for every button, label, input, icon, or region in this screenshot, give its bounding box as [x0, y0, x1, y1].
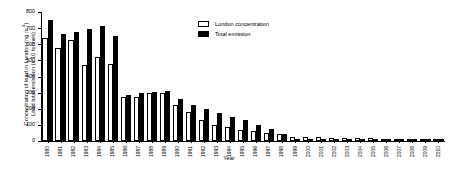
bar-group — [329, 12, 339, 141]
bar-group — [173, 12, 183, 141]
y-tick-label: 100 — [26, 121, 35, 127]
x-tick — [113, 141, 114, 143]
legend-swatch-white-icon — [198, 21, 209, 27]
bar-total-emission — [74, 32, 79, 141]
bar-total-emission — [282, 134, 287, 141]
bar-group — [420, 12, 430, 141]
bar-group — [277, 12, 287, 141]
bar-group — [355, 12, 365, 141]
y-tick-label: 400 — [26, 73, 35, 79]
bar-total-emission — [243, 120, 248, 141]
x-tick — [61, 141, 62, 143]
x-tick — [178, 141, 179, 143]
y-tick-label: 300 — [26, 89, 35, 95]
y-tick: 400 — [38, 77, 41, 78]
y-tick: 600 — [38, 44, 41, 45]
y-tick: 300 — [38, 93, 41, 94]
bar-total-emission — [126, 95, 131, 141]
y-tick: 700 — [38, 28, 41, 29]
x-tick — [87, 141, 88, 143]
bar-group — [394, 12, 404, 141]
bar-total-emission — [48, 20, 53, 141]
bar-group — [381, 12, 391, 141]
x-tick — [48, 141, 49, 143]
bar-total-emission — [178, 99, 183, 141]
bar-total-emission — [113, 36, 118, 141]
x-tick — [191, 141, 192, 143]
bar-group — [147, 12, 157, 141]
y-tick-label: 600 — [26, 41, 35, 47]
bar-total-emission — [100, 26, 105, 141]
x-tick — [412, 141, 413, 143]
x-tick — [269, 141, 270, 143]
bar-group — [134, 12, 144, 141]
x-tick — [165, 141, 166, 143]
bar-group — [68, 12, 78, 141]
legend-item-london-concentration: London concentration — [198, 19, 269, 29]
bar-group — [186, 12, 196, 141]
bar-total-emission — [165, 91, 170, 141]
bar-group — [303, 12, 313, 141]
x-tick — [438, 141, 439, 143]
bar-group — [55, 12, 65, 141]
x-tick — [347, 141, 348, 143]
bar-group — [121, 12, 131, 141]
lead-emission-bar-chart: Concentration of lead in London (ng m-3)… — [0, 0, 458, 172]
y-tick: 100 — [38, 125, 41, 126]
bar-group — [433, 12, 443, 141]
bar-total-emission — [256, 125, 261, 141]
x-tick — [399, 141, 400, 143]
y-tick-label: 200 — [26, 105, 35, 111]
bar-total-emission — [191, 105, 196, 141]
bar-group — [368, 12, 378, 141]
x-tick — [334, 141, 335, 143]
x-tick — [373, 141, 374, 143]
bar-total-emission — [61, 34, 66, 141]
x-tick — [126, 141, 127, 143]
y-tick: 500 — [38, 60, 41, 61]
y-tick-label: 800 — [26, 8, 35, 14]
bar-total-emission — [204, 109, 209, 141]
bar-total-emission — [217, 113, 222, 141]
x-tick — [360, 141, 361, 143]
legend-swatch-black-icon — [198, 31, 209, 37]
x-tick — [230, 141, 231, 143]
legend-label-london-concentration: London concentration — [215, 21, 269, 27]
y-tick-label: 0 — [32, 137, 35, 143]
x-tick — [256, 141, 257, 143]
x-tick — [74, 141, 75, 143]
bar-total-emission — [139, 93, 144, 141]
y-axis-title: Concentration of lead in London (ng m-3)… — [0, 0, 26, 150]
y-tick: 0 — [38, 141, 41, 142]
bar-group — [407, 12, 417, 141]
x-tick — [425, 141, 426, 143]
x-tick — [139, 141, 140, 143]
y-tick-label: 700 — [26, 25, 35, 31]
x-tick — [204, 141, 205, 143]
bar-group — [108, 12, 118, 141]
x-tick — [243, 141, 244, 143]
x-tick — [295, 141, 296, 143]
legend: London concentration Total emission — [198, 19, 269, 39]
bar-total-emission — [152, 92, 157, 141]
y-tick: 800 — [38, 12, 41, 13]
bar-group — [42, 12, 52, 141]
legend-label-total-emission: Total emission — [215, 31, 250, 37]
x-tick — [152, 141, 153, 143]
x-tick — [217, 141, 218, 143]
x-axis-title: Year — [0, 155, 458, 161]
bar-group — [95, 12, 105, 141]
x-tick — [321, 141, 322, 143]
x-tick — [100, 141, 101, 143]
x-tick — [308, 141, 309, 143]
y-tick-label: 500 — [26, 57, 35, 63]
bar-group — [160, 12, 170, 141]
x-tick — [386, 141, 387, 143]
bar-total-emission — [230, 117, 235, 141]
bar-group — [342, 12, 352, 141]
x-tick — [282, 141, 283, 143]
bar-total-emission — [87, 29, 92, 141]
bar-group — [316, 12, 326, 141]
bar-group — [290, 12, 300, 141]
legend-item-total-emission: Total emission — [198, 29, 269, 39]
